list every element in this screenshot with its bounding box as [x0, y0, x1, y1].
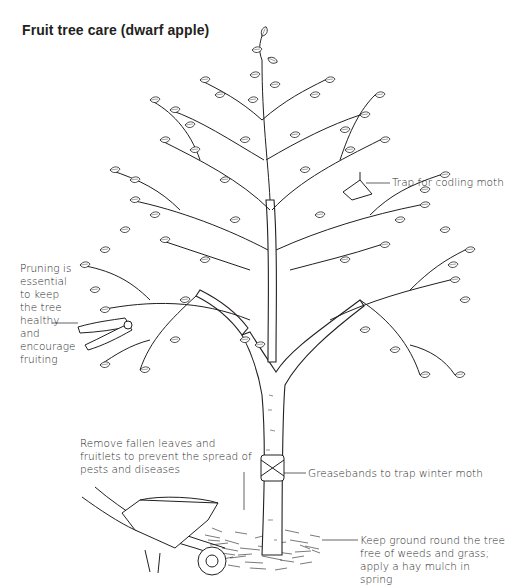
- label-codling-moth-trap: Trap for codling moth: [392, 176, 504, 189]
- label-ground-care: Keep ground round the tree free of weeds…: [360, 534, 505, 586]
- trunk: [196, 200, 364, 555]
- grease-band: [261, 455, 284, 481]
- wheelbarrow: [82, 487, 226, 575]
- label-pruning: Pruning is essential to keep the tree he…: [20, 262, 78, 366]
- leader-lines: [52, 183, 390, 540]
- codling-moth-trap: [343, 172, 372, 200]
- pruning-shears: [78, 318, 132, 350]
- label-fallen-leaves: Remove fallen leaves and fruitlets to pr…: [80, 437, 255, 476]
- label-greasebands: Greasebands to trap winter moth: [308, 467, 483, 480]
